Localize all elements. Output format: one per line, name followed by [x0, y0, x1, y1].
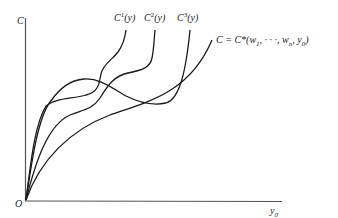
label-c3: C3(y) — [177, 12, 198, 23]
curve-c2 — [26, 30, 190, 200]
origin-label: O — [15, 199, 22, 209]
label-c2: C2(y) — [144, 12, 165, 23]
y-axis-label: C — [17, 16, 24, 26]
label-c1: C1(y) — [114, 12, 135, 23]
label-c-star: C = C*(w1, · · ·, wn, y0) — [216, 35, 309, 48]
cost-curves-diagram — [0, 0, 338, 218]
curve-c3 — [26, 30, 155, 200]
x-axis-label: y0 — [270, 206, 278, 218]
curve-c-star — [26, 40, 212, 200]
x-axis — [25, 201, 282, 202]
